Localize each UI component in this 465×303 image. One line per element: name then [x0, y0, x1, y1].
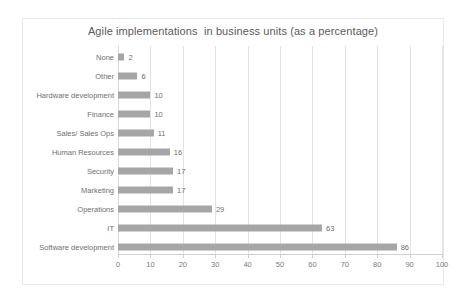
bar [118, 243, 397, 250]
x-axis-tick-label: 10 [146, 260, 154, 269]
x-axis-tick-label: 0 [116, 260, 120, 269]
x-axis-tick-label: 90 [405, 260, 413, 269]
category-label: Software development [39, 242, 114, 251]
bar-value-label: 6 [141, 71, 145, 80]
axis-tick [312, 255, 313, 258]
axis-tick [118, 255, 119, 258]
category-label: Finance [87, 109, 114, 118]
category-label: None [96, 52, 114, 61]
x-axis-tick-label: 70 [341, 260, 349, 269]
bar-row: Security17 [118, 161, 442, 180]
x-axis-tick-label: 60 [308, 260, 316, 269]
bar [118, 110, 150, 117]
bar-value-label: 11 [158, 128, 166, 137]
axis-tick [280, 255, 281, 258]
x-axis-tick-label: 40 [243, 260, 251, 269]
category-label: Other [95, 71, 114, 80]
chart-container: Agile implementations in business units … [22, 18, 444, 285]
x-axis-tick-label: 20 [179, 260, 187, 269]
category-label: Sales/ Sales Ops [56, 128, 114, 137]
bar-value-label: 10 [154, 109, 162, 118]
axis-tick [345, 255, 346, 258]
bar-value-label: 86 [401, 242, 409, 251]
bar-value-label: 63 [326, 223, 334, 232]
bar-row: Other6 [118, 66, 442, 85]
category-label: Human Resources [52, 147, 114, 156]
bar [118, 129, 154, 136]
bar-value-label: 2 [128, 52, 132, 61]
bar-value-label: 29 [216, 204, 224, 213]
x-axis-tick-label: 100 [436, 260, 449, 269]
bar-row: Human Resources16 [118, 142, 442, 161]
bar-row: Hardware development10 [118, 85, 442, 104]
bar-value-label: 16 [174, 147, 182, 156]
gridline [442, 46, 443, 254]
bar [118, 167, 173, 174]
bar-value-label: 10 [154, 90, 162, 99]
axis-tick [215, 255, 216, 258]
bar-row: None2 [118, 47, 442, 66]
bar [118, 72, 137, 79]
axis-tick [248, 255, 249, 258]
axis-tick [377, 255, 378, 258]
bar [118, 224, 322, 231]
bar-value-label: 17 [177, 166, 185, 175]
axis-tick [150, 255, 151, 258]
category-label: IT [107, 223, 114, 232]
category-label: Operations [77, 204, 114, 213]
bar-row: Operations29 [118, 199, 442, 218]
bar-row: Finance10 [118, 104, 442, 123]
bar [118, 205, 212, 212]
bar-row: IT63 [118, 218, 442, 237]
x-axis-tick-label: 50 [276, 260, 284, 269]
category-label: Security [87, 166, 114, 175]
x-axis-tick-label: 30 [211, 260, 219, 269]
bar [118, 91, 150, 98]
axis-tick [442, 255, 443, 258]
bar-row: Sales/ Sales Ops11 [118, 123, 442, 142]
axis-tick [183, 255, 184, 258]
bar [118, 186, 173, 193]
bar [118, 148, 170, 155]
category-label: Hardware development [36, 90, 114, 99]
x-axis-tick-label: 80 [373, 260, 381, 269]
bar-value-label: 17 [177, 185, 185, 194]
bar-row: Marketing17 [118, 180, 442, 199]
bar [118, 53, 124, 60]
category-label: Marketing [81, 185, 114, 194]
axis-tick [410, 255, 411, 258]
plot-area: None2Other6Hardware development10Finance… [118, 46, 442, 254]
chart-title: Agile implementations in business units … [23, 25, 443, 37]
